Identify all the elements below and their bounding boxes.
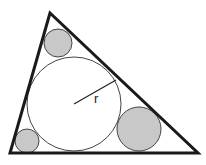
triangle-diagram: r bbox=[0, 0, 206, 165]
small-circle-bottom-left bbox=[15, 129, 39, 153]
small-circle-top bbox=[44, 29, 72, 57]
radius-label: r bbox=[94, 91, 99, 106]
